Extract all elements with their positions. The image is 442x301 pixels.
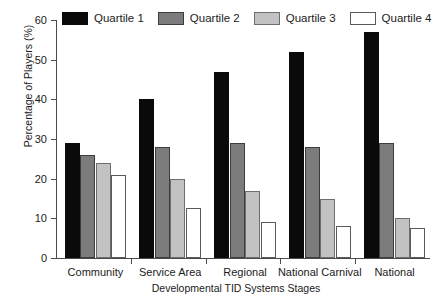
bar: [305, 147, 320, 258]
bar-chart-figure: Quartile 1 Quartile 2 Quartile 3 Quartil…: [0, 0, 442, 301]
y-tick-label: 20: [35, 173, 47, 185]
bar-group: [289, 20, 351, 258]
y-axis-line: [56, 20, 57, 259]
bar: [170, 179, 185, 258]
bar: [214, 72, 229, 258]
y-tick: 10: [51, 218, 56, 219]
y-tick: 50: [51, 60, 56, 61]
x-tick: [280, 259, 281, 264]
y-tick-label: 60: [35, 14, 47, 26]
x-axis-line: [56, 258, 430, 259]
bar: [186, 208, 201, 258]
bar: [96, 163, 111, 258]
bar: [139, 99, 154, 258]
y-tick: 60: [51, 20, 56, 21]
x-category-label: Service Area: [139, 266, 201, 278]
x-tick: [355, 259, 356, 264]
bar: [155, 147, 170, 258]
y-tick-label: 30: [35, 133, 47, 145]
bar-group: [364, 20, 426, 258]
bar: [111, 175, 126, 258]
y-axis-title: Percentage of Players (%): [22, 0, 34, 176]
bar: [230, 143, 245, 258]
bar: [336, 226, 351, 258]
bar: [245, 191, 260, 258]
y-tick: 0: [51, 258, 56, 259]
x-category-label: National Carnival: [278, 266, 362, 278]
bar-group: [214, 20, 276, 258]
y-tick: 40: [51, 99, 56, 100]
y-tick-label: 40: [35, 93, 47, 105]
x-tick: [131, 259, 132, 264]
bar: [364, 32, 379, 258]
bar-group: [139, 20, 201, 258]
bar: [395, 218, 410, 258]
x-tick: [206, 259, 207, 264]
x-category-label: National: [374, 266, 414, 278]
x-axis-title: Developmental TID Systems Stages: [40, 282, 432, 294]
bar: [65, 143, 80, 258]
plot-area: 0102030405060 CommunityService AreaRegio…: [56, 20, 430, 258]
y-tick-label: 0: [41, 252, 47, 264]
bar: [320, 199, 335, 259]
bar: [410, 228, 425, 258]
bar: [289, 52, 304, 258]
bar: [80, 155, 95, 258]
bar-group: [65, 20, 127, 258]
x-category-label: Regional: [223, 266, 266, 278]
y-tick: 20: [51, 179, 56, 180]
y-tick: 30: [51, 139, 56, 140]
bar: [261, 222, 276, 258]
x-category-label: Community: [68, 266, 124, 278]
y-tick-label: 10: [35, 212, 47, 224]
y-tick-label: 50: [35, 54, 47, 66]
bar: [379, 143, 394, 258]
